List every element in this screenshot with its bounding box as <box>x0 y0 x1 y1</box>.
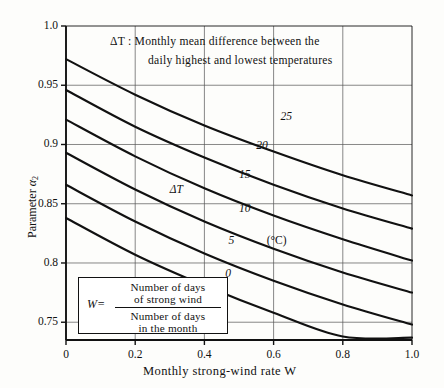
y-tick-label-0.75: 0.75 <box>14 316 58 328</box>
formula-denominator-line-1: Number of days <box>115 310 221 322</box>
x-tick-label-0.8: 0.8 <box>323 349 363 361</box>
y-tick-label-0.9: 0.9 <box>14 138 58 150</box>
formula-numerator-line-2: of strong wind <box>115 293 221 305</box>
delta-t-inline-annotation: ΔT <box>170 184 183 196</box>
chart-annotation-text-1: ΔT : Monthly mean difference between the <box>110 35 320 48</box>
x-tick-label-0.2: 0.2 <box>115 349 155 361</box>
x-tick-label-0: 0 <box>46 349 86 361</box>
formula-numerator-line-1: Number of days <box>115 281 221 293</box>
x-tick-label-0.6: 0.6 <box>254 349 294 361</box>
chart-annotation-text-2: daily highest and lowest temperatures <box>148 54 332 67</box>
y-tick-label-0.8: 0.8 <box>14 257 58 269</box>
curve-label-5: 5 <box>229 235 235 247</box>
curve-label-10: 10 <box>239 203 251 215</box>
formula-fraction: Number of days of strong wind Number of … <box>115 281 221 335</box>
formula-definition-box: W= Number of days of strong wind Number … <box>78 277 228 334</box>
formula-lhs: W= <box>87 297 105 312</box>
x-tick-label-0.4: 0.4 <box>184 349 224 361</box>
x-tick-label-1.0: 1.0 <box>392 349 432 361</box>
temperature-unit-text: (°C) <box>267 234 287 246</box>
curve-label-15: 15 <box>239 169 251 181</box>
y-axis-title-symbol: α <box>25 180 39 186</box>
chart-figure: 0.750.80.850.90.951.0 00.20.40.60.81.0 P… <box>0 0 444 388</box>
y-axis-title-subscript: 2 <box>31 176 40 180</box>
x-axis-title-text: Monthly strong-wind rate W <box>143 364 297 378</box>
x-axis-title: Monthly strong-wind rate W <box>143 365 297 378</box>
curve-label-20: 20 <box>256 140 268 152</box>
temperature-unit-annotation: (°C) <box>267 235 287 247</box>
curve-label-25: 25 <box>281 111 293 123</box>
y-axis-title-text: Parameter <box>25 186 39 238</box>
formula-denominator-line-2: in the month <box>115 322 221 334</box>
y-tick-label-1.0: 1.0 <box>14 20 58 32</box>
curve-delta-t-15 <box>66 120 412 261</box>
y-axis-title: Parameter α2 <box>26 176 40 238</box>
delta-t-inline-text: ΔT <box>170 183 183 195</box>
y-tick-label-0.95: 0.95 <box>14 79 58 91</box>
formula-fraction-bar <box>115 307 221 308</box>
chart-annotation-line-1: ΔT : Monthly mean difference between the <box>110 36 320 48</box>
chart-annotation-line-2: daily highest and lowest temperatures <box>148 55 332 67</box>
